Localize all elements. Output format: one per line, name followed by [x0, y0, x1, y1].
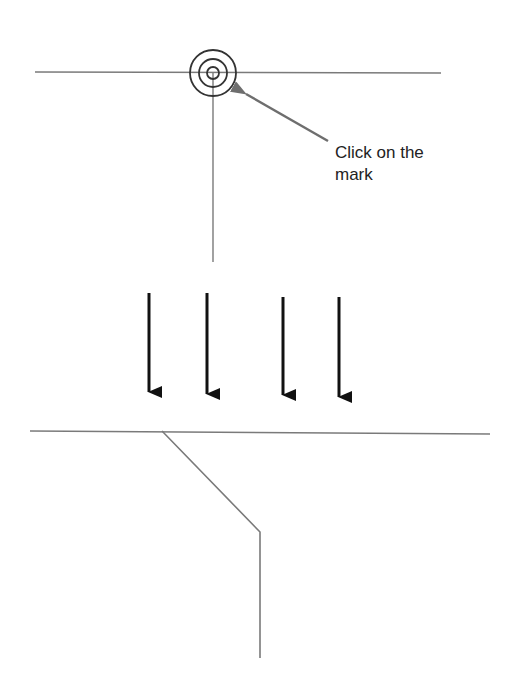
top-horizontal-line — [35, 72, 441, 73]
bottom-horizontal-line — [30, 431, 490, 434]
pointer-arrow-icon — [246, 94, 328, 141]
down-arrows-group — [149, 293, 339, 397]
annotation-line-1: Click on the — [335, 142, 424, 163]
bent-line — [162, 431, 260, 658]
annotation-line-2: mark — [335, 164, 373, 185]
diagram-canvas — [0, 0, 514, 700]
